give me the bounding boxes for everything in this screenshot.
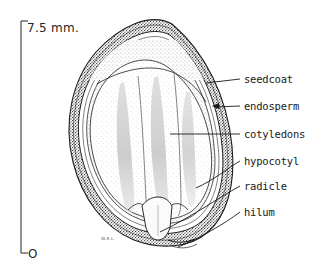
label-endosperm: endosperm <box>244 100 299 112</box>
label-radicle: radicle <box>244 180 287 192</box>
label-seedcoat: seedcoat <box>244 73 293 85</box>
scale-top-label: 7.5 mm. <box>27 21 79 35</box>
label-cotyledons: cotyledons <box>244 128 305 140</box>
scale-bottom-label: O <box>28 247 38 261</box>
label-hilum: hilum <box>244 206 275 218</box>
label-hypocotyl: hypocotyl <box>244 155 299 167</box>
artist-signature: W.R.L. <box>101 236 115 241</box>
seed-anatomy-figure: 7.5 mm. O <box>0 0 329 278</box>
